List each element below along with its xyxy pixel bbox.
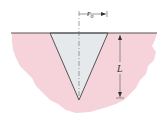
cone-diagram: ro L <box>0 0 165 118</box>
radius-arrowhead <box>101 12 106 16</box>
radius-label: ro <box>87 8 94 19</box>
length-label: L <box>116 63 123 74</box>
